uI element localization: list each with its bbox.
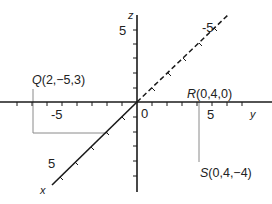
z-tick-label-5: 5 [119,23,126,38]
y-tick-label-neg5: -5 [51,107,63,122]
x-tick-label-5: 5 [48,156,55,171]
y-tick-label-5: 5 [207,107,214,122]
point-q-letter: Q [32,73,42,87]
point-r-letter: R [187,87,196,101]
x-axis-front [52,102,137,185]
point-r-coords: (0,4,0) [196,87,232,101]
x-axis-label: x [39,184,46,196]
construction-lines [33,89,199,162]
point-s-label: S(0,4,−4) [200,166,252,180]
axes-svg: z 5 y -5 5 x 5 -5 0 Q(2,−5,3) R(0,4,0) S… [0,0,272,204]
point-s-coords: (0,4,−4) [208,166,251,180]
x-back-tick-label-neg5: -5 [202,20,214,35]
point-r-label: R(0,4,0) [187,87,232,101]
coordinate-diagram: z 5 y -5 5 x 5 -5 0 Q(2,−5,3) R(0,4,0) S… [0,0,272,204]
point-q-coords: (2,−5,3) [42,73,85,87]
z-axis-label: z [127,9,134,21]
point-q-label: Q(2,−5,3) [32,73,85,87]
origin-label: 0 [141,106,148,121]
y-axis-label: y [249,108,257,120]
